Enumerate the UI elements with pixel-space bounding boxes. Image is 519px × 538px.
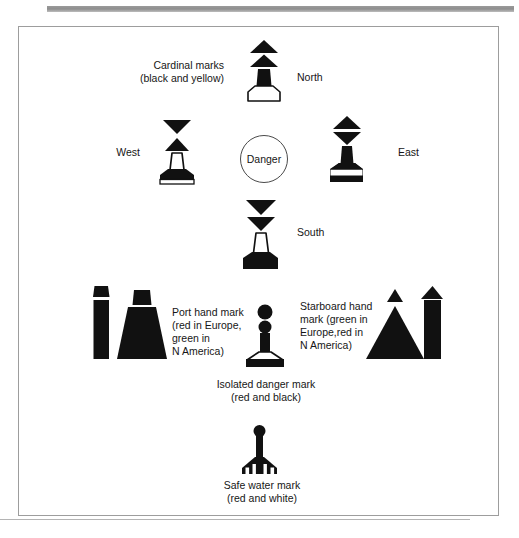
bottom-caption	[2, 527, 422, 538]
north-cardinal-mark	[228, 36, 300, 102]
starboard-hand-mark-label: Starboard hand mark (green in Europe,red…	[300, 300, 394, 352]
west-cardinal-mark	[146, 113, 218, 185]
cardinal-marks-label: Cardinal marks (black and yellow)	[126, 59, 224, 85]
north-label: North	[297, 71, 357, 84]
danger-label: Danger	[247, 153, 281, 165]
isolated-danger-mark	[238, 302, 294, 368]
south-cardinal-mark	[230, 196, 302, 272]
top-divider-rule	[47, 6, 514, 12]
port-hand-mark	[88, 284, 170, 362]
west-label: West	[92, 146, 140, 159]
east-cardinal-mark	[318, 110, 392, 184]
danger-circle: Danger	[240, 135, 288, 183]
bottom-divider-rule	[0, 519, 470, 520]
south-label: South	[297, 226, 349, 239]
east-label: East	[398, 146, 448, 159]
safe-water-mark-label: Safe water mark (red and white)	[192, 479, 332, 505]
isolated-danger-mark-label: Isolated danger mark (red and black)	[186, 378, 346, 404]
safe-water-mark	[232, 424, 288, 476]
